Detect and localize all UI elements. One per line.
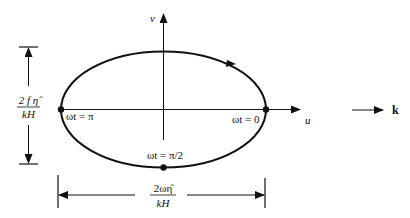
point-wt-pi-2 — [160, 164, 166, 170]
horizontal-dimension: 2ωη̂ kH — [58, 175, 265, 209]
v-axis-label: v — [150, 12, 155, 24]
label-wt-0: ωt = 0 — [232, 113, 260, 125]
u-axis-label: u — [305, 114, 311, 126]
label-wt-pi: ωt = π — [66, 110, 94, 122]
hodograph-diagram: v u ωt = 0 ωt = π/2 ωt = π k 2 f η̂ kH 2… — [0, 0, 410, 218]
label-wt-pi-2: ωt = π/2 — [147, 149, 183, 161]
wave-vector-label: k — [392, 103, 399, 117]
horizontal-dim-denominator: kH — [157, 197, 171, 209]
vertical-dim-denominator: kH — [22, 108, 36, 120]
horizontal-dim-numerator: 2ωη̂ — [154, 182, 174, 194]
point-wt-0 — [263, 106, 269, 112]
point-wt-pi — [58, 106, 64, 112]
vertical-dimension: 2 f η̂ kH — [17, 47, 43, 164]
vertical-dim-numerator: 2 f η̂ — [19, 94, 44, 106]
